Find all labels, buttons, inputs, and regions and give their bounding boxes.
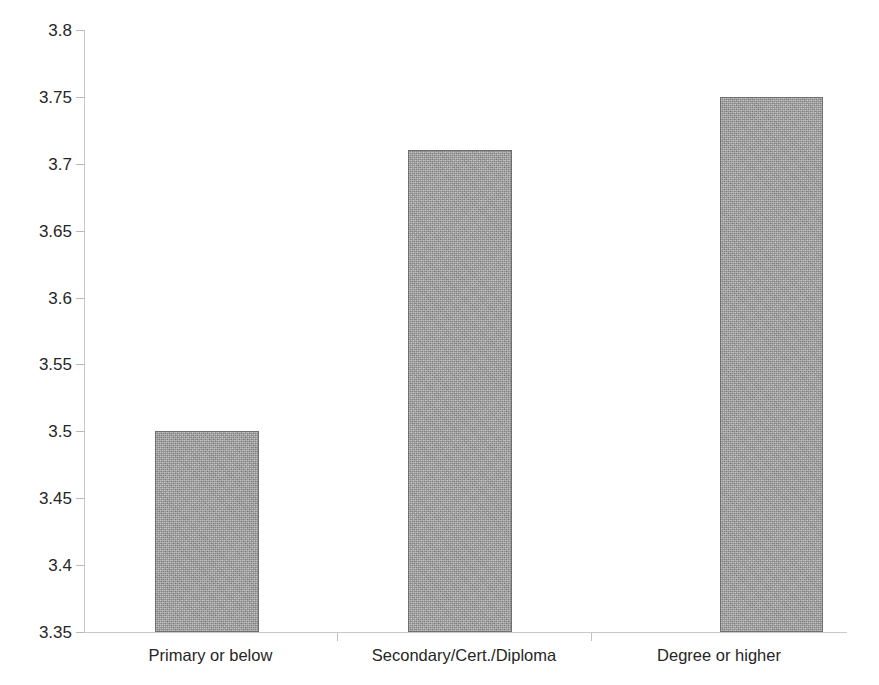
x-axis-category-label: Secondary/Cert./Diploma — [337, 645, 591, 665]
y-axis-tick-label-container: 3.7 — [0, 156, 72, 173]
y-axis-tick-label-container: 3.8 — [0, 22, 72, 39]
y-axis-tick-label: 3.55 — [6, 356, 72, 373]
y-axis-tick-label: 3.35 — [6, 624, 72, 641]
bar-chart: 3.8 3.75 3.7 3.65 3.6 3.55 3.5 3.45 3.4 … — [0, 0, 879, 685]
bar-degree-or-higher — [720, 97, 823, 632]
x-axis-category-label: Degree or higher — [591, 645, 847, 665]
y-axis-tick-label: 3.4 — [6, 557, 72, 574]
y-axis-tick-label: 3.45 — [6, 490, 72, 507]
y-axis-tick-label-container: 3.75 — [0, 89, 72, 106]
y-axis-tick-label-container: 3.45 — [0, 490, 72, 507]
x-axis-line — [84, 632, 847, 633]
x-axis-separator-tick — [591, 633, 592, 641]
plot-area — [84, 30, 847, 632]
x-axis-category-label: Primary or below — [84, 645, 337, 665]
y-axis-tick-label-container: 3.65 — [0, 223, 72, 240]
y-axis-tick-label: 3.6 — [6, 290, 72, 307]
y-axis-tick-label-container: 3.6 — [0, 290, 72, 307]
x-axis-separator-tick — [337, 633, 338, 641]
y-axis-tick-label: 3.65 — [6, 223, 72, 240]
y-axis-tick-label: 3.8 — [6, 22, 72, 39]
y-axis-tick-label: 3.5 — [6, 423, 72, 440]
bar-secondary-cert-diploma — [408, 150, 512, 632]
y-axis-tick-label-container: 3.5 — [0, 423, 72, 440]
y-axis-tick-label: 3.7 — [6, 156, 72, 173]
bar-primary-or-below — [155, 431, 259, 632]
y-axis-tick-label-container: 3.4 — [0, 557, 72, 574]
y-axis-tick-label-container: 3.35 — [0, 624, 72, 641]
y-axis-tick-label: 3.75 — [6, 89, 72, 106]
y-axis-tick-label-container: 3.55 — [0, 356, 72, 373]
